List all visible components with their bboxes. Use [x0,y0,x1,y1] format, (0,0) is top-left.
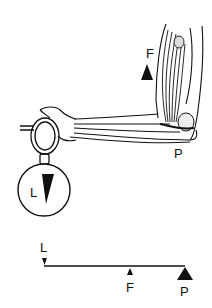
schematic-load-arrow-icon [42,258,47,265]
lever-diagram: L F P L F P [0,0,212,308]
schematic-force-arrow-icon [127,268,133,275]
weight-load-label: L [30,185,37,200]
fulcrum-icon [177,267,193,280]
schematic-pivot-label: P [180,284,189,299]
schematic-force-label: F [126,280,134,295]
lever-schematic [42,258,193,280]
weight-handle [20,118,59,164]
biceps-muscle [162,30,185,122]
schematic-load-label: L [40,240,47,255]
illustration-pivot-label: P [174,146,183,161]
illustration-force-label: F [146,46,154,61]
force-arrow-icon [141,64,153,80]
hand [40,107,76,141]
weight-load [18,164,70,216]
